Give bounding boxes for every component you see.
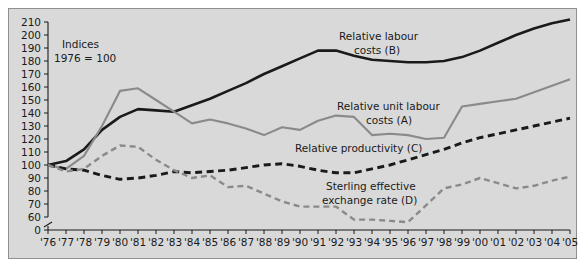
x-tick-label: '01 [490, 236, 506, 248]
x-tick-label: '00 [472, 236, 488, 248]
chart-svg: 0607080901001101201301401501601701801902… [0, 0, 585, 267]
y-tick-label: 140 [21, 107, 41, 119]
x-tick-label: '03 [526, 236, 542, 248]
x-tick-label: '96 [400, 236, 417, 248]
series-line-A [48, 79, 570, 169]
x-tick-label: '86 [220, 236, 237, 248]
x-tick-label: '93 [346, 236, 362, 248]
y-tick-label: 70 [28, 198, 41, 210]
x-tick-label: '79 [94, 236, 110, 248]
y-tick-label: 130 [21, 120, 41, 132]
x-tick-label: '81 [130, 236, 146, 248]
x-tick-label: '91 [310, 236, 326, 248]
y-tick-label: 190 [21, 42, 41, 54]
y-tick-label: 180 [21, 55, 41, 67]
x-tick-label: '88 [256, 236, 272, 248]
x-tick-label: '04 [544, 236, 561, 248]
y-tick-label: 90 [28, 172, 41, 184]
x-tick-label: '87 [238, 236, 254, 248]
y-tick-label: 120 [21, 133, 41, 145]
y-tick-label: 210 [21, 16, 41, 28]
x-tick-label: '77 [58, 236, 74, 248]
x-tick-label: '02 [508, 236, 524, 248]
indices-note-line1: Indices [62, 38, 99, 50]
x-tick-label: '95 [382, 236, 398, 248]
x-tick-label: '80 [112, 236, 128, 248]
indices-note-line2: 1976 = 100 [54, 52, 116, 64]
x-tick-label: '85 [202, 236, 218, 248]
x-tick-label: '92 [328, 236, 344, 248]
x-tick-label: '84 [184, 236, 201, 248]
y-tick-label: 80 [28, 185, 41, 197]
x-tick-label: '94 [364, 236, 381, 248]
series-label-B-line2: costs (B) [354, 44, 400, 56]
x-tick-label: '99 [454, 236, 470, 248]
y-tick-label: 200 [21, 29, 41, 41]
y-tick-label: 170 [21, 68, 41, 80]
series-label-D-line2: exchange rate (D) [322, 194, 417, 206]
x-tick-label: '78 [76, 236, 92, 248]
series-label-A-line2: costs (A) [366, 114, 412, 126]
x-tick-label: '90 [292, 236, 308, 248]
y-tick-label: 100 [21, 159, 41, 171]
y-tick-label: 0 [34, 224, 41, 236]
x-tick-label: '97 [418, 236, 434, 248]
chart-container: 0607080901001101201301401501601701801902… [0, 0, 585, 267]
y-tick-label: 60 [28, 211, 41, 223]
series-label-D-line1: Sterling effective [326, 180, 416, 192]
y-tick-label: 160 [21, 81, 41, 93]
series-line-D [48, 146, 570, 223]
x-tick-label: '05 [562, 236, 578, 248]
series-label-B-line1: Relative labour [339, 30, 419, 42]
x-tick-label: '83 [166, 236, 182, 248]
x-tick-label: '98 [436, 236, 452, 248]
series-label-C-line1: Relative productivity (C) [295, 142, 422, 154]
x-tick-label: '89 [274, 236, 290, 248]
series-label-A-line1: Relative unit labour [337, 100, 440, 112]
x-tick-label: '76 [40, 236, 57, 248]
y-tick-label: 110 [21, 146, 41, 158]
x-tick-label: '82 [148, 236, 164, 248]
y-tick-label: 150 [21, 94, 41, 106]
